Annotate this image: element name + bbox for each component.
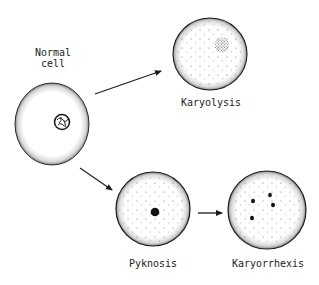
normal-cell: [15, 83, 89, 165]
label-normal-cell: Normal cell: [28, 47, 78, 69]
pyknotic-nucleus-icon: [151, 208, 160, 217]
faded-nucleus-icon: [215, 38, 230, 53]
label-karyorrhexis: Karyorrhexis: [228, 258, 308, 269]
label-karyolysis: Karyolysis: [176, 97, 246, 108]
karyorrhexis-cell: [228, 171, 306, 249]
pyknosis-cell: [116, 172, 190, 246]
arrow-normal-to-karyolysis-icon: [95, 71, 161, 94]
arrow-normal-to-pyknosis-icon: [80, 168, 112, 190]
normal-nucleus-icon: [55, 115, 70, 130]
karyolysis-cell: [173, 18, 247, 90]
diagram-canvas: Normal cell Karyolysis Pyknosis Karyorrh…: [0, 0, 319, 285]
label-pyknosis: Pyknosis: [120, 258, 186, 269]
